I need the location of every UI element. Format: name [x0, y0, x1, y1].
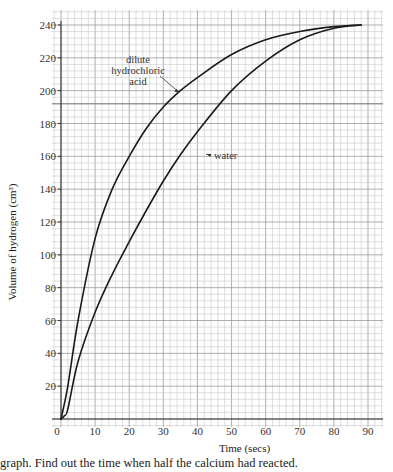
hcl-label: hydrochloric — [111, 65, 165, 76]
y-tick-label: 160 — [40, 150, 57, 162]
x-tick-label: 60 — [260, 425, 272, 437]
hcl-label: acid — [129, 76, 147, 87]
x-tick-label: 0 — [54, 425, 60, 437]
y-tick-label: 200 — [40, 85, 57, 97]
x-tick-label: 80 — [328, 425, 340, 437]
y-tick-label: 220 — [40, 52, 57, 64]
question-caption: graph. Find out the time when half the c… — [0, 456, 298, 471]
water-label: water — [214, 150, 238, 161]
x-tick-label: 50 — [226, 425, 238, 437]
x-tick-label: 90 — [363, 425, 375, 437]
y-tick-label: 120 — [40, 216, 57, 228]
y-tick-label: 80 — [45, 282, 57, 294]
y-tick-label: 140 — [40, 183, 57, 195]
y-tick-label: 60 — [45, 315, 57, 327]
y-tick-label: 40 — [45, 347, 57, 359]
curve-annotations: dilutehydrochloricacidwater — [111, 54, 238, 161]
y-tick-label: 20 — [45, 380, 57, 392]
x-tick-label: 30 — [158, 425, 170, 437]
y-tick-label: 240 — [40, 19, 57, 31]
x-tick-label: 20 — [124, 425, 136, 437]
hcl-label: dilute — [126, 54, 150, 65]
hydrogen-volume-chart: 0102030405060708090204060801001201401601… — [0, 0, 393, 456]
y-tick-label: 180 — [40, 118, 57, 130]
y-axis-title: Volume of hydrogen (cm³) — [6, 183, 19, 300]
x-axis-title: Time (secs) — [219, 442, 271, 455]
x-tick-label: 10 — [90, 425, 102, 437]
y-tick-label: 100 — [40, 249, 57, 261]
x-tick-label: 70 — [294, 425, 306, 437]
x-tick-label: 40 — [192, 425, 204, 437]
